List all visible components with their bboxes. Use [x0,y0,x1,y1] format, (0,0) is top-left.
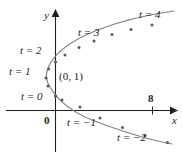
marker-dot [78,46,81,49]
marker-dot [79,106,82,109]
y-axis-label: y [44,10,49,21]
x-tick-label-8: 8 [148,93,154,104]
origin-label: 0 [44,115,50,126]
marker-dot [47,85,50,88]
marker-dot-vertex [44,76,47,79]
marker-dot [130,28,133,31]
t-label-neg-1: t = −1 [67,117,96,128]
plot-canvas [0,0,183,158]
marker-dot [64,54,67,57]
x-axis-label: x [172,115,177,126]
marker-dot-t0 [54,94,57,97]
marker-dot [166,141,169,144]
marker-dot [99,117,102,120]
point-label-0-1: (0, 1) [59,71,83,82]
marker-dot [93,40,96,43]
marker-dot [111,33,114,36]
t-label-1: t = 1 [9,66,30,77]
t-label-4: t = 4 [139,9,160,20]
marker-dot [61,99,64,102]
t-label-neg-2: t = −2 [117,132,146,143]
t-label-0: t = 0 [21,91,42,102]
parametric-curve-figure: y x 8 0 (0, 1) t = −2 t = −1 t = 0 t = 1… [0,0,183,158]
x-axis [6,107,178,115]
marker-dot-t2 [54,60,57,63]
marker-dot [47,68,50,71]
y-axis-arrowhead [52,9,60,17]
t-label-2: t = 2 [20,45,41,56]
marker-dot [151,24,154,27]
t-label-3: t = 3 [78,27,99,38]
marker-dot [121,126,124,129]
